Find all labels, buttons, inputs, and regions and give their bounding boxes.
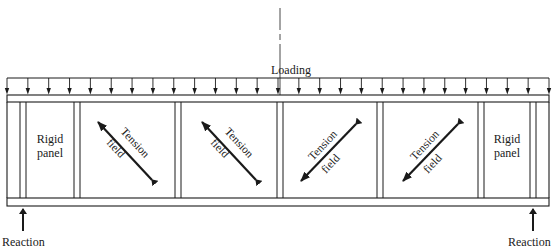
reaction-left: Reaction: [2, 209, 45, 249]
load-arrowhead-icon: [192, 88, 196, 95]
load-arrowhead-icon: [255, 88, 259, 95]
load-arrowhead-icon: [380, 88, 384, 95]
stiffeners: [20, 102, 536, 198]
load-arrowhead-icon: [338, 88, 342, 95]
load-arrowhead-icon: [213, 88, 217, 95]
load-arrowhead-icon: [109, 88, 113, 95]
load-arrowhead-icon: [5, 88, 9, 95]
load-arrowhead-icon: [547, 88, 551, 95]
load-arrowhead-icon: [297, 88, 301, 95]
top-flange: [7, 95, 549, 102]
load-arrowhead-icon: [484, 88, 488, 95]
load-arrowhead-icon: [234, 88, 238, 95]
load-arrowhead-icon: [422, 88, 426, 95]
rigid-panel-label-1: Rigid: [494, 132, 521, 146]
field-label: field: [421, 152, 444, 176]
rigid-panel-label-2: panel: [494, 146, 521, 160]
field-label: field: [319, 152, 342, 176]
load-arrowhead-icon: [172, 88, 176, 95]
load-arrowhead-icon: [26, 88, 30, 95]
load-arrowhead-icon: [151, 88, 155, 95]
field-label: field: [105, 136, 128, 160]
load-arrowhead-icon: [526, 88, 530, 95]
load-arrowhead-icon: [359, 88, 363, 95]
bottom-flange: [7, 198, 549, 206]
load-arrowhead-icon: [88, 88, 92, 95]
tension-field-panel-3: Tension field: [301, 124, 356, 181]
rigid-panel-left: Rigid panel: [37, 132, 64, 160]
plate-girder-diagram: Loading Rigid panel Tension: [0, 0, 556, 252]
distributed-load: [5, 78, 551, 95]
load-arrowhead-icon: [130, 88, 134, 95]
load-arrowhead-icon: [443, 88, 447, 95]
reaction-right: Reaction: [508, 209, 551, 249]
load-arrowhead-icon: [463, 88, 467, 95]
loading-label: Loading: [271, 63, 311, 77]
load-arrowhead-icon: [317, 88, 321, 95]
field-label: field: [209, 136, 232, 160]
load-arrowhead-icon: [46, 88, 50, 95]
load-arrowhead-icon: [67, 88, 71, 95]
load-arrowhead-icon: [401, 88, 405, 95]
tension-field-panel-2: Tension field: [202, 122, 256, 180]
rigid-panel-right: Rigid panel: [494, 132, 521, 160]
load-arrowhead-icon: [276, 88, 280, 95]
reaction-label: Reaction: [2, 235, 45, 249]
rigid-panel-label-1: Rigid: [37, 132, 64, 146]
reaction-label: Reaction: [508, 235, 551, 249]
load-arrowhead-icon: [505, 88, 509, 95]
rigid-panel-label-2: panel: [37, 146, 64, 160]
tension-field-panel-4: Tension field: [403, 124, 458, 181]
tension-field-panel-1: Tension field: [98, 122, 152, 180]
